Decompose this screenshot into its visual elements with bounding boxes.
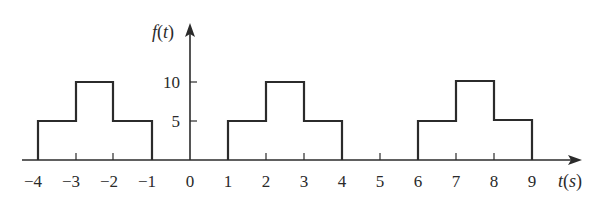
x-ticks: [76, 153, 494, 160]
x-tick-label: 9: [528, 172, 537, 191]
x-axis-label: t(s): [558, 171, 582, 192]
y-axis-label: f(t): [152, 22, 174, 43]
x-tick-label: 3: [300, 172, 309, 191]
x-tick-label: −1: [138, 172, 156, 191]
x-tick-label: 5: [376, 172, 385, 191]
x-tick-labels: −4 −3 −2 −1 0 1 2 3 4 5 6 7 8 9: [24, 172, 536, 191]
pulse-1: [38, 82, 152, 160]
x-tick-label: 4: [338, 172, 347, 191]
x-tick-label: 7: [452, 172, 461, 191]
x-tick-label: 1: [224, 172, 233, 191]
pulse-3: [418, 81, 532, 160]
x-tick-label: −4: [24, 172, 43, 191]
x-tick-label: −3: [62, 172, 80, 191]
x-tick-label: 2: [262, 172, 271, 191]
y-tick-label-5: 5: [172, 112, 181, 131]
x-tick-label: 0: [186, 172, 195, 191]
pulse-2: [228, 82, 342, 160]
x-tick-label: 8: [490, 172, 499, 191]
x-tick-label: 6: [414, 172, 423, 191]
x-tick-label: −2: [100, 172, 118, 191]
step-function-chart: 10 5 −4 −3 −2 −1 0 1 2 3 4 5 6 7 8 9 f(t…: [0, 0, 604, 199]
pulse-series: [38, 81, 532, 160]
y-tick-label-10: 10: [163, 73, 180, 92]
